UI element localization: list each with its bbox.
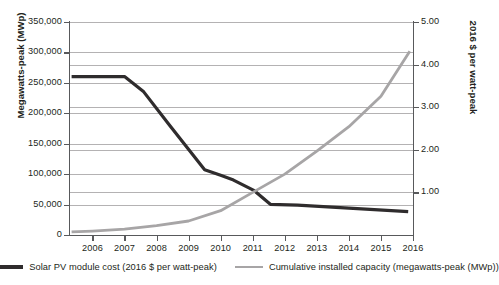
legend-item-installed-capacity: Cumulative installed capacity (megawatts… xyxy=(235,262,499,272)
gridline-right-5.00 xyxy=(70,22,413,23)
x-axis-line xyxy=(69,235,414,236)
x-tick-label-2016: 2016 xyxy=(393,243,433,253)
y-axis-right-title: 2016 $ per watt-peak xyxy=(468,0,479,143)
x-tick-2012 xyxy=(285,236,286,241)
y-tick-label-left-150000: 150,000 xyxy=(28,138,62,148)
y-tick-left-0 xyxy=(64,235,69,236)
y-tick-label-left-350000: 350,000 xyxy=(28,16,62,26)
legend-label-module-cost: Solar PV module cost (2016 $ per watt-pe… xyxy=(29,262,217,272)
gridline-right-4.00 xyxy=(70,65,413,66)
y-tick-label-left-0: 0 xyxy=(57,229,62,239)
y-tick-label-right-4.00: 4.00 xyxy=(421,59,439,69)
y-tick-right-1.00 xyxy=(414,192,419,193)
y-tick-label-left-50000: 50,000 xyxy=(33,199,62,209)
y-tick-left-250000 xyxy=(64,83,69,84)
y-tick-label-right-2.00: 2.00 xyxy=(421,144,439,154)
x-tick-2010 xyxy=(221,236,222,241)
chart-legend: Solar PV module cost (2016 $ per watt-pe… xyxy=(0,262,494,272)
y-tick-left-100000 xyxy=(64,174,69,175)
gridline-250000 xyxy=(70,83,413,84)
x-tick-2015 xyxy=(381,236,382,241)
y-tick-right-2.00 xyxy=(414,150,419,151)
legend-swatch-module-cost xyxy=(0,265,23,268)
x-tick-2013 xyxy=(317,236,318,241)
y-tick-label-left-250000: 250,000 xyxy=(28,77,62,87)
y-tick-label-left-300000: 300,000 xyxy=(28,46,62,56)
plot-area xyxy=(70,22,413,235)
y-tick-label-left-100000: 100,000 xyxy=(28,168,62,178)
y-axis-left-title: Megawatts-peak (MWp) xyxy=(15,0,26,141)
y-tick-left-50000 xyxy=(64,205,69,206)
y-tick-left-150000 xyxy=(64,144,69,145)
y-tick-label-right-3.00: 3.00 xyxy=(421,101,439,111)
x-tick-2008 xyxy=(157,236,158,241)
y-tick-left-350000 xyxy=(64,22,69,23)
y-tick-label-right-5.00: 5.00 xyxy=(421,16,439,26)
y-tick-label-right-1.00: 1.00 xyxy=(421,186,439,196)
gridline-300000 xyxy=(70,52,413,53)
x-tick-2011 xyxy=(253,236,254,241)
x-tick-2014 xyxy=(349,236,350,241)
y-tick-right-5.00 xyxy=(414,22,419,23)
gridline-50000 xyxy=(70,205,413,206)
gridline-right-3.00 xyxy=(70,107,413,108)
gridline-200000 xyxy=(70,113,413,114)
gridline-150000 xyxy=(70,144,413,145)
legend-item-module-cost: Solar PV module cost (2016 $ per watt-pe… xyxy=(0,262,217,272)
legend-swatch-installed-capacity xyxy=(235,266,263,269)
gridline-100000 xyxy=(70,174,413,175)
y-tick-label-left-200000: 200,000 xyxy=(28,107,62,117)
y-axis-right-line xyxy=(413,21,414,236)
y-tick-right-4.00 xyxy=(414,65,419,66)
y-axis-left-line xyxy=(69,21,70,236)
gridline-right-1.00 xyxy=(70,192,413,193)
x-tick-2016 xyxy=(413,236,414,241)
y-tick-left-200000 xyxy=(64,113,69,114)
x-tick-2007 xyxy=(124,236,125,241)
gridline-right-2.00 xyxy=(70,150,413,151)
y-tick-right-3.00 xyxy=(414,107,419,108)
x-tick-2009 xyxy=(189,236,190,241)
y-tick-left-300000 xyxy=(64,52,69,53)
legend-label-installed-capacity: Cumulative installed capacity (megawatts… xyxy=(269,262,499,272)
x-tick-2006 xyxy=(92,236,93,241)
